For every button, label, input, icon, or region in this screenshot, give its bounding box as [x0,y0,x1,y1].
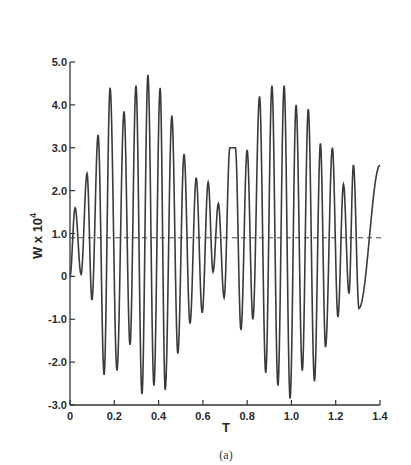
chart: 5.04.03.02.01.00-1.0-2.0-3.0 00.20.40.60… [0,0,411,465]
y-tick-label: -1.0 [48,313,67,325]
x-tick-label: 1.0 [284,410,299,422]
figure-caption: (a) [219,448,232,462]
y-tick-label: 0 [61,270,67,282]
data-series-w [70,75,380,399]
y-tick-label: 3.0 [52,142,67,154]
y-tick-label: -3.0 [48,399,67,411]
x-tick-label: 1.4 [372,410,388,422]
y-axis: 5.04.03.02.01.00-1.0-2.0-3.0 [48,56,75,411]
y-tick-label: 5.0 [52,56,67,68]
x-tick-label: 0.2 [107,410,122,422]
x-tick-label: 0.4 [151,410,167,422]
y-tick-label: -2.0 [48,356,67,368]
y-tick-label: 4.0 [52,99,67,111]
x-tick-label: 0.8 [239,410,254,422]
x-axis-title: T [222,420,230,435]
x-tick-label: 0.6 [195,410,210,422]
y-tick-label: 1.0 [52,228,67,240]
x-tick-label: 1.2 [328,410,343,422]
x-tick-label: 0 [67,410,73,422]
y-axis-title: W x 104 [28,213,45,259]
x-axis: 00.20.40.60.81.01.21.4 [67,400,389,422]
y-tick-label: 2.0 [52,185,67,197]
